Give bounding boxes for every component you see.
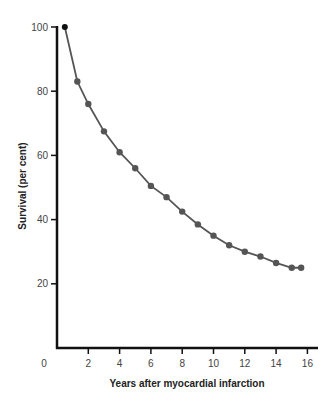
- x-tick-label: 2: [86, 358, 92, 369]
- y-tick-label: 40: [37, 214, 49, 225]
- origin-label: 0: [41, 358, 47, 369]
- data-point: [195, 221, 201, 227]
- x-tick-label: 10: [208, 358, 220, 369]
- x-tick-label: 12: [239, 358, 251, 369]
- data-point: [273, 260, 279, 266]
- data-point: [116, 149, 122, 155]
- data-point: [289, 265, 295, 271]
- x-axis-title: Years after myocardial infarction: [109, 378, 264, 389]
- data-point: [257, 253, 263, 259]
- data-point: [85, 101, 91, 107]
- x-tick-label: 6: [148, 358, 154, 369]
- x-tick-label: 14: [271, 358, 283, 369]
- y-tick-label: 20: [37, 278, 49, 289]
- data-point: [101, 128, 107, 134]
- y-tick-label: 100: [31, 22, 48, 33]
- y-tick-label: 80: [37, 86, 49, 97]
- data-point: [74, 78, 80, 84]
- data-point: [179, 208, 185, 214]
- x-axis-ticks: 246810121416: [86, 348, 314, 369]
- data-point: [62, 24, 68, 30]
- data-point: [298, 265, 304, 271]
- data-point: [226, 242, 232, 248]
- x-tick-label: 4: [117, 358, 123, 369]
- data-point: [242, 249, 248, 255]
- x-tick-label: 16: [302, 358, 314, 369]
- x-tick-label: 8: [179, 358, 185, 369]
- y-tick-label: 60: [37, 150, 49, 161]
- data-point: [148, 183, 154, 189]
- survival-chart: 20406080100 246810121416 0 Years after m…: [0, 0, 333, 405]
- survival-series: [62, 24, 305, 271]
- data-point: [163, 194, 169, 200]
- y-axis-ticks: 20406080100: [31, 22, 57, 290]
- survival-line: [65, 27, 301, 268]
- y-axis-title: Survival (per cent): [17, 142, 28, 229]
- data-point: [210, 232, 216, 238]
- data-point: [132, 165, 138, 171]
